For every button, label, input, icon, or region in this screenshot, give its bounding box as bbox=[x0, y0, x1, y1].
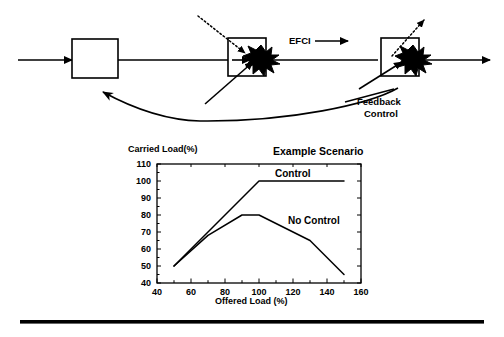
page-divider-rule bbox=[20, 320, 484, 324]
feedback-label-line-2: Control bbox=[364, 108, 398, 119]
figure-canvas: EFCI Feedback Control Carried Load(%) Ex… bbox=[0, 0, 504, 337]
feedback-label-line-1: Feedback bbox=[357, 96, 402, 107]
x-tick-label: 40 bbox=[152, 287, 162, 297]
efci-label: EFCI bbox=[289, 35, 311, 46]
x-tick-label: 140 bbox=[319, 287, 334, 297]
y-tick-label: 90 bbox=[141, 193, 151, 203]
chart-y-axis-title: Carried Load(%) bbox=[128, 144, 198, 154]
source-switch-box[interactable] bbox=[72, 39, 118, 78]
x-tick-label: 60 bbox=[186, 287, 196, 297]
x-tick-label: 160 bbox=[353, 287, 368, 297]
network-diagram: EFCI Feedback Control bbox=[18, 16, 490, 121]
series-label-no-control: No Control bbox=[288, 215, 340, 226]
feedback-control-path bbox=[103, 88, 398, 121]
y-tick-label: 40 bbox=[141, 278, 151, 288]
chart-x-axis-title: Offered Load (%) bbox=[215, 296, 288, 306]
chart-title: Example Scenario bbox=[273, 145, 363, 157]
y-tick-label: 100 bbox=[136, 176, 151, 186]
y-tick-label: 70 bbox=[141, 227, 151, 237]
x-tick-label: 80 bbox=[220, 287, 230, 297]
x-tick-label: 100 bbox=[251, 287, 266, 297]
y-tick-label: 60 bbox=[141, 244, 151, 254]
example-scenario-chart: Carried Load(%) Example Scenario 4050607… bbox=[128, 144, 369, 306]
y-tick-label: 50 bbox=[141, 261, 151, 271]
x-tick-label: 120 bbox=[285, 287, 300, 297]
y-tick-label: 80 bbox=[141, 210, 151, 220]
x-axis-tick-labels: 406080100120140160 bbox=[152, 287, 369, 297]
series-label-control: Control bbox=[275, 168, 311, 179]
y-axis-tick-labels: 405060708090100110 bbox=[136, 159, 151, 288]
y-tick-label: 110 bbox=[136, 159, 151, 169]
